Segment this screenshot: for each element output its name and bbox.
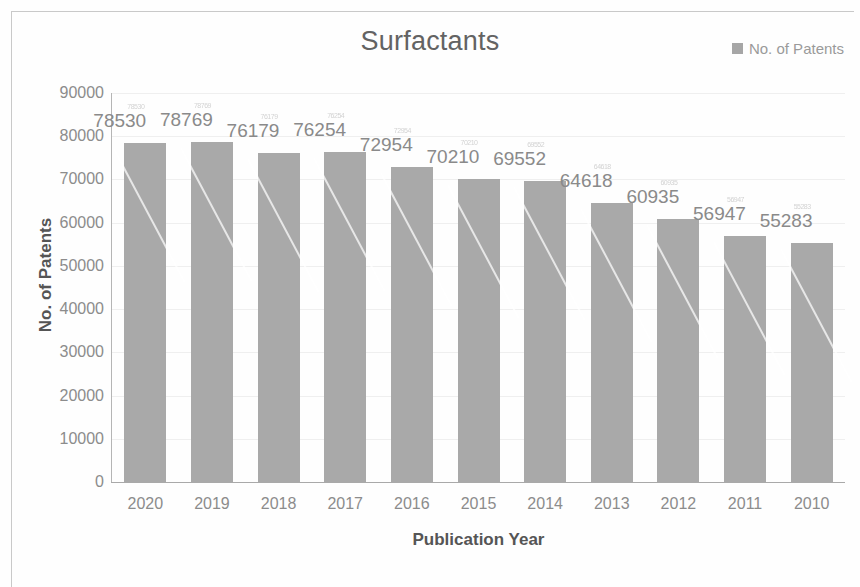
x-axis-title: Publication Year — [112, 530, 845, 550]
x-axis-tick-label: 2010 — [772, 495, 852, 513]
x-axis-tick-labels: 2020201920182017201620152014201320122011… — [0, 0, 860, 587]
chart-container: Surfactants No. of Patents No. of Patent… — [0, 0, 860, 587]
